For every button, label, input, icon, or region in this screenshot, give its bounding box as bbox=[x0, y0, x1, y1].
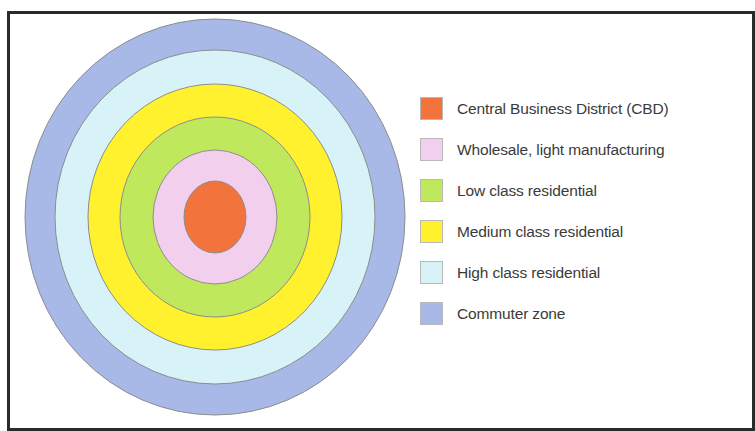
legend-item-label: Low class residential bbox=[457, 183, 597, 199]
legend-item[interactable]: Wholesale, light manufacturing bbox=[420, 129, 750, 170]
legend-item[interactable]: High class residential bbox=[420, 252, 750, 293]
legend-swatch-wholesale-light-manufacturing-icon bbox=[420, 138, 443, 161]
legend-swatch-commuter-zone-icon bbox=[420, 302, 443, 325]
legend-item-label: High class residential bbox=[457, 265, 600, 281]
legend-swatch-high-class-residential-icon bbox=[420, 261, 443, 284]
legend-swatch-low-class-residential-icon bbox=[420, 179, 443, 202]
legend-swatch-central-business-district-icon bbox=[420, 97, 443, 120]
legend-item-label: Wholesale, light manufacturing bbox=[457, 142, 664, 158]
zone-central-business-district[interactable] bbox=[184, 181, 246, 253]
legend-item[interactable]: Medium class residential bbox=[420, 211, 750, 252]
legend: Central Business District (CBD) Wholesal… bbox=[420, 88, 750, 334]
concentric-zone-diagram bbox=[0, 0, 430, 426]
legend-item[interactable]: Commuter zone bbox=[420, 293, 750, 334]
legend-swatch-medium-class-residential-icon bbox=[420, 220, 443, 243]
legend-item-label: Medium class residential bbox=[457, 224, 623, 240]
legend-item[interactable]: Central Business District (CBD) bbox=[420, 88, 750, 129]
legend-item[interactable]: Low class residential bbox=[420, 170, 750, 211]
zone-rings-svg bbox=[0, 0, 430, 426]
legend-item-label: Central Business District (CBD) bbox=[457, 101, 669, 117]
legend-item-label: Commuter zone bbox=[457, 306, 565, 322]
